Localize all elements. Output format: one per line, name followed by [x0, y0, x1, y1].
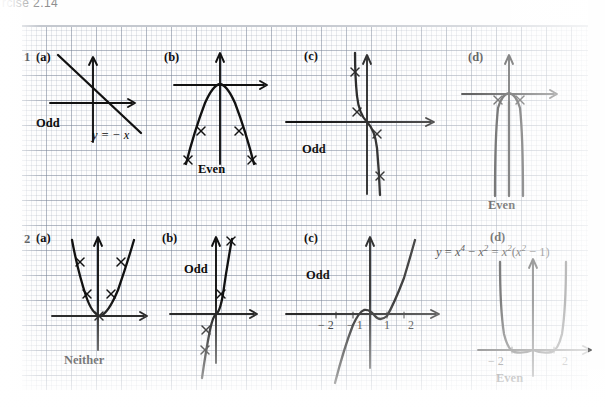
paper-top-edge [22, 25, 588, 27]
graph-2b [158, 228, 293, 380]
panel-2c: (c) Odd − 2 − 1 1 2 [296, 228, 456, 383]
graph-2d [440, 228, 605, 388]
classification-2a: Neither [64, 353, 104, 368]
classification-2c: Odd [306, 268, 330, 283]
classification-2b: Odd [184, 262, 208, 277]
tick-label-2c-minus2: − 2 [318, 318, 334, 333]
scan-header-text: rcise 2.14 [2, 0, 202, 10]
panel-2a: (a) Neither [36, 228, 166, 368]
classification-1d: Even [488, 198, 515, 213]
panel-1c: (c) Odd [296, 46, 436, 211]
row-number-2: 2 [24, 232, 30, 247]
classification-1b: Even [198, 162, 225, 177]
classification-2d: Even [496, 371, 523, 386]
classification-1c: Odd [302, 142, 326, 157]
tick-label-2d-two: 2 [562, 354, 568, 369]
panel-1d: (d) Even [446, 46, 586, 221]
panel-2b: (b) Odd [158, 228, 288, 378]
graph-1c [296, 46, 446, 211]
panel-2d: (d) y = x4 − x2 = x2(x2 − 1) − 2 2 Even [440, 228, 605, 388]
graph-1d [446, 46, 591, 221]
panel-1b: (b) Even [160, 46, 285, 176]
equation-1a: y = − x [92, 128, 129, 143]
tick-label-2c-one: 1 [384, 318, 390, 333]
tick-label-2d-minus2: − 2 [488, 354, 504, 369]
graph-2a [36, 228, 171, 368]
classification-1a: Odd [36, 116, 60, 131]
tick-label-2c-minus1: − 1 [347, 318, 363, 333]
scanned-answer-page: rcise 2.14 1 (a) Odd y = − x (b) [0, 0, 605, 408]
panel-1a: (a) Odd y = − x [36, 46, 156, 146]
row-number-1: 1 [24, 50, 30, 65]
graph-1b [160, 46, 290, 176]
tick-label-2c-two: 2 [408, 318, 414, 333]
